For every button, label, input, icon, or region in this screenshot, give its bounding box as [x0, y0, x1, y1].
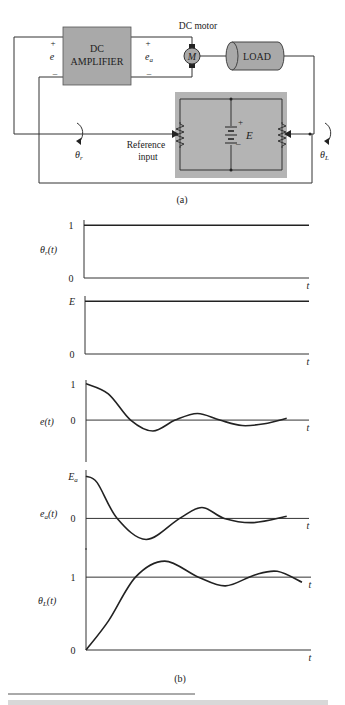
wire-load-feedback: [284, 56, 314, 134]
battery-voltage-label: E: [245, 129, 253, 141]
panel-b-label: (b): [174, 673, 186, 685]
load-label: LOAD: [243, 51, 271, 62]
chart-2-ytick-label: 0: [71, 415, 76, 426]
chart-1-ytick-label: E: [68, 296, 75, 307]
load-cylinder: LOAD: [226, 42, 284, 70]
chart-4-series-theta_L: [86, 561, 302, 650]
dc-motor-label: DC motor: [179, 21, 218, 31]
output-voltage-label: ea: [145, 51, 153, 64]
wire-output-plus: [131, 37, 192, 48]
theta-r-rotation-arrow: [77, 123, 83, 141]
input-plus-sign: +: [50, 38, 55, 48]
circuit-diagram: DC AMPLIFIER + e – + ea – DC motor M LOA…: [14, 21, 331, 183]
battery-plus-sign: +: [238, 117, 243, 127]
bridge-node-bottom: [230, 169, 233, 172]
chart-2-series-e: [86, 384, 287, 431]
figure-canvas: DC AMPLIFIER + e – + ea – DC motor M LOA…: [0, 0, 345, 705]
theta-l-label: θL: [320, 149, 329, 162]
chart-2-ylabel: e(t): [40, 416, 55, 428]
chart-3-series-ea: [86, 476, 287, 539]
chart-0-ytick-label: 1: [69, 220, 74, 231]
wire-output-minus: [131, 64, 192, 77]
output-plus-sign: +: [145, 38, 150, 48]
caption-cropped-text: [8, 700, 328, 705]
reference-input-label-line1: Reference: [127, 140, 166, 150]
feedback-junction-node: [309, 133, 312, 136]
input-voltage-label: e: [50, 51, 55, 62]
theta-l-rotation-arrow: [325, 123, 331, 141]
chart-0-ytick-label: 0: [69, 273, 74, 284]
panel-a-label: (a): [176, 194, 187, 206]
motor-symbol: M: [187, 51, 197, 62]
chart-2-xlabel: t: [307, 422, 310, 433]
chart-4-xlabel: t: [309, 652, 312, 663]
chart-1-ytick-label: 0: [70, 349, 75, 360]
bridge-node-top: [230, 98, 233, 101]
chart-4-ytick-label: 1: [71, 572, 76, 583]
chart-1-xlabel: t: [307, 356, 310, 367]
theta-r-arrowhead: [76, 138, 81, 145]
amplifier-label-line2: AMPLIFIER: [71, 56, 124, 67]
amplifier-label-line1: DC: [90, 43, 104, 54]
chart-4-xlabel-upper: t: [309, 579, 312, 590]
chart-0-xlabel: t: [307, 280, 310, 291]
battery-minus-sign: –: [235, 138, 241, 148]
reference-input-label-line2: input: [138, 152, 158, 162]
chart-3-ylabel: ea(t): [40, 508, 58, 521]
waveform-charts: 10tθr(t)E0t10te(t)Ea0tea(t)10ttθL(t): [38, 220, 312, 663]
chart-3-xlabel: t: [307, 520, 310, 531]
chart-3-ytick-label: Ea: [67, 471, 78, 484]
theta-r-label: θr: [75, 149, 83, 162]
chart-3-ytick-label: 0: [71, 513, 76, 524]
chart-4-ytick-label: 0: [71, 645, 76, 656]
input-minus-sign: –: [52, 68, 58, 78]
output-minus-sign: –: [146, 68, 152, 78]
chart-2-ytick-label: 1: [71, 379, 76, 390]
chart-0-ylabel: θr(t): [40, 244, 58, 257]
chart-4-ylabel: θL(t): [38, 595, 57, 608]
theta-l-arrowhead: [324, 138, 329, 145]
